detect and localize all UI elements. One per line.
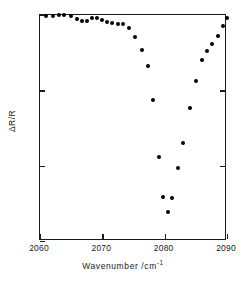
y-axis-tick-labels: 00.050.100.15 bbox=[0, 0, 246, 284]
x-axis-title-exponent: -1 bbox=[157, 259, 164, 266]
y-axis-title: ΔR/R bbox=[7, 96, 17, 146]
x-axis-title-text: Wavenumber /cm bbox=[82, 261, 157, 271]
figure-reflectance-spectrum: 2060207020802090 00.050.100.15 Wavenumbe… bbox=[0, 0, 246, 284]
x-axis-title: Wavenumber /cm-1 bbox=[0, 261, 246, 271]
